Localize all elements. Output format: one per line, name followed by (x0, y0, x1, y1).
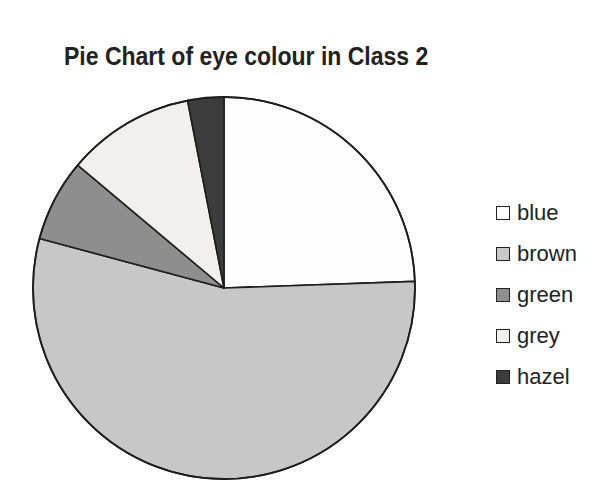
chart-page: Pie Chart of eye colour in Class 2 blue … (0, 0, 592, 501)
legend-swatch-brown (496, 247, 510, 261)
legend-label-hazel: hazel (517, 366, 570, 388)
legend-label-grey: grey (517, 325, 560, 347)
legend-item-brown: brown (496, 233, 577, 274)
chart-title: Pie Chart of eye colour in Class 2 (64, 42, 428, 71)
legend: blue brown green grey hazel (496, 192, 577, 397)
legend-swatch-hazel (496, 370, 510, 384)
legend-swatch-green (496, 288, 510, 302)
legend-swatch-grey (496, 329, 510, 343)
pie-slice-blue (224, 97, 415, 288)
legend-label-green: green (517, 284, 573, 306)
legend-label-brown: brown (517, 243, 577, 265)
legend-item-blue: blue (496, 192, 577, 233)
legend-label-blue: blue (517, 202, 559, 224)
pie-chart (32, 96, 416, 480)
legend-item-hazel: hazel (496, 356, 577, 397)
legend-item-grey: grey (496, 315, 577, 356)
legend-swatch-blue (496, 206, 510, 220)
legend-item-green: green (496, 274, 577, 315)
